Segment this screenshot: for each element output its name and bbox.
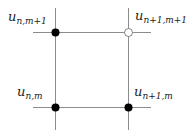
node-bottom-left-filled [52,104,60,112]
label-bottom-right: un+1,m [134,85,173,101]
node-top-left-filled [52,29,60,37]
label-bottom-left: un,m [17,85,43,101]
label-top-left: un,m+1 [8,10,47,26]
node-bottom-right-filled [125,104,133,112]
node-top-right-open [125,29,133,37]
label-top-right: un+1,m+1 [135,9,187,25]
